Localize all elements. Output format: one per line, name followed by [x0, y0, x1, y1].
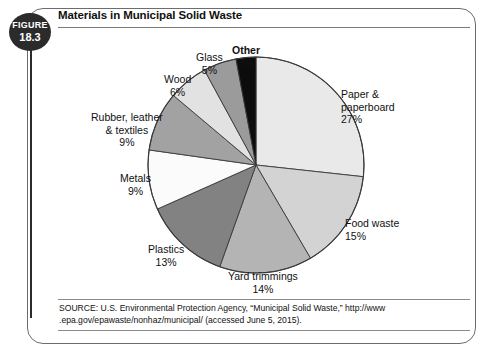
- pie-label-metals-name: Metals: [120, 172, 151, 184]
- pie-label-food-percent: 15%: [345, 230, 399, 243]
- figure-badge-number: 18.3: [19, 32, 40, 43]
- pie-label-plastics: Plastics 13%: [148, 243, 184, 268]
- pie-chart: [40, 30, 470, 292]
- pie-label-food-name: Food waste: [345, 217, 399, 229]
- pie-label-paper-paperboard: Paper & paperboard 27%: [341, 88, 395, 126]
- pie-label-yard-name: Yard trimmings: [228, 270, 298, 282]
- pie-chart-svg: [40, 30, 470, 292]
- pie-label-metals-percent: 9%: [120, 185, 151, 198]
- pie-label-plastics-percent: 13%: [148, 256, 184, 269]
- pie-label-yard-percent: 14%: [228, 283, 298, 296]
- pie-label-metals: Metals 9%: [120, 172, 151, 197]
- pie-label-rubber-name-line2: & textiles: [106, 124, 149, 136]
- pie-label-wood-name: Wood: [164, 73, 191, 85]
- source-note: SOURCE: U.S. Environmental Protection Ag…: [59, 303, 467, 326]
- figure-badge-word: FIGURE: [12, 21, 48, 30]
- source-divider-top: [58, 299, 470, 300]
- figure-badge: FIGURE 18.3: [9, 13, 51, 51]
- pie-label-rubber-name-line1: Rubber, leather: [91, 111, 163, 123]
- figure-badge-stem: [30, 50, 32, 318]
- source-note-line1: SOURCE: U.S. Environmental Protection Ag…: [59, 303, 385, 313]
- pie-label-other-name: Other: [232, 44, 260, 56]
- pie-label-glass-name: Glass: [196, 51, 223, 63]
- title-divider: [58, 27, 470, 28]
- source-divider-bottom: [58, 330, 470, 331]
- pie-label-paper-percent: 27%: [341, 113, 395, 126]
- pie-label-food-waste: Food waste 15%: [345, 217, 399, 242]
- pie-label-rubber-percent: 9%: [91, 136, 163, 149]
- pie-label-plastics-name: Plastics: [148, 243, 184, 255]
- pie-label-wood: Wood 6%: [164, 73, 191, 98]
- pie-label-wood-percent: 6%: [164, 86, 191, 99]
- pie-label-paper-name-line1: Paper &: [341, 88, 379, 100]
- pie-label-glass: Glass 5%: [196, 51, 223, 76]
- pie-label-rubber-leather-textiles: Rubber, leather & textiles 9%: [91, 111, 163, 149]
- pie-label-yard-trimmings: Yard trimmings 14%: [228, 270, 298, 295]
- pie-label-other: Other 3%: [232, 44, 260, 69]
- source-note-line2: .epa.gov/epawaste/nonhaz/municipal/ (acc…: [59, 315, 302, 325]
- pie-label-other-percent: 3%: [232, 57, 260, 70]
- chart-title: Materials in Municipal Solid Waste: [58, 9, 242, 21]
- pie-label-paper-name-line2: paperboard: [341, 101, 395, 113]
- pie-label-glass-percent: 5%: [196, 64, 223, 77]
